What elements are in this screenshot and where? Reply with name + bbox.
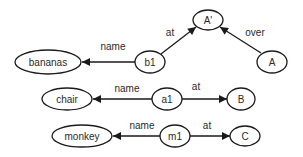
node-label: monkey bbox=[64, 131, 99, 142]
node-a-prime: A' bbox=[193, 10, 223, 30]
edge-m1-name-monkey: name bbox=[113, 120, 160, 137]
edge-label: name bbox=[129, 120, 154, 131]
semantic-network-diagram: nameatovernameatnameat A'Ab1bananaschair… bbox=[0, 0, 303, 157]
edge-label: at bbox=[203, 120, 212, 131]
node-label: A bbox=[269, 57, 276, 68]
node-label: bananas bbox=[29, 57, 67, 68]
node-label: chair bbox=[56, 94, 78, 105]
node-label: B bbox=[238, 94, 245, 105]
edge-label: at bbox=[192, 81, 201, 92]
edge-m1-at-C: at bbox=[190, 120, 230, 137]
edge-a1-name-chair: name bbox=[93, 83, 152, 100]
node-label: m1 bbox=[168, 131, 182, 142]
node-c: C bbox=[230, 126, 260, 146]
node-b1: b1 bbox=[135, 51, 165, 73]
edge-label: name bbox=[114, 83, 139, 94]
edge-label: name bbox=[100, 41, 125, 52]
node-a1: a1 bbox=[152, 88, 182, 110]
node-a: A bbox=[257, 51, 287, 73]
node-monkey: monkey bbox=[52, 125, 112, 147]
edge-label: at bbox=[166, 27, 175, 38]
edge-b1-name-bananas: name bbox=[82, 41, 135, 63]
node-m1: m1 bbox=[160, 125, 190, 147]
node-chair: chair bbox=[42, 88, 92, 110]
node-b: B bbox=[227, 88, 255, 110]
edge-b1-at-A_prime: at bbox=[161, 27, 196, 55]
node-bananas: bananas bbox=[15, 50, 81, 74]
edge-a1-at-B: at bbox=[182, 81, 227, 100]
edge-label: over bbox=[245, 27, 265, 38]
node-label: b1 bbox=[144, 57, 156, 68]
edges-layer: nameatovernameatnameat bbox=[82, 27, 265, 137]
node-label: C bbox=[241, 131, 248, 142]
node-label: A' bbox=[204, 15, 213, 26]
edge-A-over-A_prime: over bbox=[220, 27, 265, 54]
node-label: a1 bbox=[161, 94, 173, 105]
